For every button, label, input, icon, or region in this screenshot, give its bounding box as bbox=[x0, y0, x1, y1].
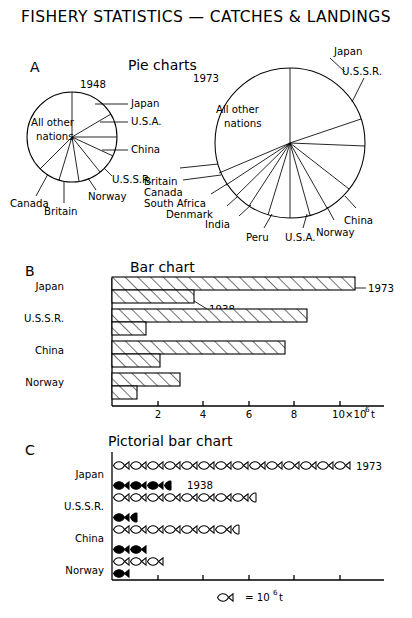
pie-1973-leader-ussr bbox=[352, 78, 364, 102]
pie-1948-leader-ussr bbox=[104, 168, 112, 176]
pie-1948-label-japan: Japan bbox=[130, 98, 159, 109]
pie-1973-label-all-other-line2: nations bbox=[224, 118, 262, 129]
pictorial-cat-china: China bbox=[75, 533, 104, 544]
legend-fish-icon bbox=[218, 594, 234, 601]
pictorial-row-ussr-1973 bbox=[114, 493, 257, 502]
pie-1973-label-usa: U.S.A. bbox=[285, 232, 315, 243]
pictorial-row-ussr-1938 bbox=[114, 513, 138, 522]
pie-1948-label-usa: U.S.A. bbox=[131, 116, 161, 127]
pie-1973-year: 1973 bbox=[193, 73, 219, 84]
bar-chart-cat-japan: Japan bbox=[35, 281, 64, 292]
bar-norway-1938 bbox=[112, 386, 137, 399]
bar-chart-cat-ussr: U.S.S.R. bbox=[24, 313, 64, 324]
pie-1973-spoke-ussr bbox=[290, 143, 365, 146]
pictorial-row-norway-1973 bbox=[114, 558, 164, 565]
pie-1948-spoke-japan bbox=[72, 114, 111, 137]
bar-china-1938 bbox=[112, 354, 160, 367]
panel-b-letter: B bbox=[25, 263, 35, 279]
legend-exponent: 6 bbox=[273, 588, 278, 597]
legend-tonnes: t bbox=[279, 592, 283, 603]
panel-c-letter: C bbox=[25, 442, 35, 458]
pie-1973-leader-india bbox=[239, 205, 251, 216]
panel-a-heading: Pie charts bbox=[128, 57, 197, 73]
bar-ticklabel-4: 4 bbox=[200, 409, 206, 420]
pie-1973-label-china: China bbox=[344, 215, 373, 226]
bar-chart-cat-norway: Norway bbox=[25, 377, 64, 388]
bar-japan-1938 bbox=[112, 290, 194, 303]
pie-1973-leader-britain bbox=[180, 164, 218, 168]
bar-ticklabel-8: 8 bbox=[291, 409, 297, 420]
bar-axis-tonnes: t bbox=[371, 409, 375, 420]
pictorial-annot-1973: 1973 bbox=[356, 461, 382, 472]
pie-chart-1948: 1948 Japan U.S.A. China U.S.S.R. Norway … bbox=[10, 79, 161, 217]
bar-chart-cat-china: China bbox=[35, 345, 64, 356]
pictorial-bar-chart: Japan 1973 1938 U.S.S.R. Ch bbox=[64, 452, 384, 603]
pie-1948-label-china: China bbox=[131, 144, 160, 155]
pie-1973-leader-norway bbox=[327, 207, 334, 220]
pie-1973-leader-denmark bbox=[227, 196, 238, 206]
pie-1973-leader-south-africa bbox=[211, 184, 227, 194]
pictorial-annot-1938: 1938 bbox=[187, 480, 213, 491]
pie-1973-label-peru: Peru bbox=[246, 232, 269, 243]
pie-1973-spoke-canada bbox=[226, 143, 290, 185]
pie-1973-label-norway: Norway bbox=[316, 227, 355, 238]
bar-axis-exponent: 6 bbox=[365, 405, 370, 414]
figure-root: FISHERY STATISTICS — CATCHES & LANDINGS … bbox=[0, 0, 412, 618]
pie-1948-spoke-ussr bbox=[72, 137, 100, 172]
pie-1948-spoke-china bbox=[72, 137, 113, 156]
pie-1973-label-japan: Japan bbox=[333, 46, 362, 57]
pie-1948-label-norway: Norway bbox=[88, 191, 127, 202]
pie-1948-label-all-other-line2: nations bbox=[36, 131, 74, 142]
bar-china-1973 bbox=[112, 341, 285, 354]
pie-1973-label-india: India bbox=[205, 219, 230, 230]
pie-1973-leader-china bbox=[345, 196, 356, 208]
pictorial-legend: = 10 6 t bbox=[218, 588, 284, 603]
bar-annot-1973: 1973 bbox=[368, 283, 394, 294]
pictorial-row-china-1938 bbox=[114, 546, 147, 553]
pie-1973-spoke-japan bbox=[290, 119, 361, 143]
bar-chart: Japan 1973 1938 U.S.S.R. China Norway 2 … bbox=[24, 277, 394, 420]
pie-1973-label-canada: Canada bbox=[144, 187, 183, 198]
fishery-statistics-figure: FISHERY STATISTICS — CATCHES & LANDINGS … bbox=[0, 0, 412, 618]
bar-axis-times10: ×10 bbox=[345, 409, 367, 420]
bar-japan-1973 bbox=[112, 277, 355, 290]
pie-1973-spoke-denmark bbox=[249, 143, 290, 206]
pie-1973-spoke-norway bbox=[290, 143, 327, 208]
bar-ticklabel-2: 2 bbox=[155, 409, 161, 420]
panel-c-heading: Pictorial bar chart bbox=[108, 433, 233, 449]
pie-1973-label-ussr: U.S.S.R. bbox=[342, 66, 382, 77]
pie-1948-label-all-other-line1: All other bbox=[31, 117, 75, 128]
pictorial-row-norway-1938 bbox=[114, 570, 130, 577]
bar-ussr-1973 bbox=[112, 309, 307, 322]
pie-1948-spoke-norway bbox=[72, 137, 79, 181]
panel-b-heading: Bar chart bbox=[130, 259, 195, 275]
pie-1973-label-south-africa: South Africa bbox=[144, 198, 206, 209]
pie-1973-spoke-china bbox=[290, 143, 349, 189]
bar-ticklabel-6: 6 bbox=[246, 409, 252, 420]
pie-chart-1973: 1973 Japan U.S.S.R. China Norway U.S.A. … bbox=[144, 46, 382, 243]
pie-1948-leader-canada bbox=[36, 174, 48, 196]
pictorial-row-china-1973 bbox=[114, 525, 240, 534]
pie-1973-label-all-other-line1: All other bbox=[216, 104, 260, 115]
bar-leader-1938 bbox=[194, 301, 207, 309]
pie-1973-spoke-usa bbox=[290, 143, 310, 215]
legend-equals-text: = 10 bbox=[245, 592, 270, 603]
bar-ussr-1938 bbox=[112, 322, 146, 335]
pie-1948-year: 1948 bbox=[80, 79, 106, 90]
pie-1973-leader-peru bbox=[264, 214, 272, 228]
pictorial-cat-japan: Japan bbox=[75, 469, 104, 480]
bar-axis-unit-label: 10 ×10 6 t bbox=[332, 405, 375, 420]
pictorial-cat-ussr: U.S.S.R. bbox=[64, 501, 104, 512]
panel-a-letter: A bbox=[30, 59, 40, 75]
pictorial-row-japan-1973 bbox=[114, 462, 351, 469]
pie-1973-label-denmark: Denmark bbox=[166, 209, 213, 220]
pie-1973-leader-canada bbox=[183, 175, 221, 180]
pie-1948-leader-norway bbox=[88, 178, 96, 190]
pie-1973-label-britain: Britain bbox=[144, 176, 178, 187]
pie-1973-spoke-britain bbox=[219, 143, 290, 173]
bar-norway-1973 bbox=[112, 373, 180, 386]
bar-ticklabel-10: 10 bbox=[332, 409, 345, 420]
pie-1948-label-britain: Britain bbox=[44, 206, 78, 217]
pictorial-cat-norway: Norway bbox=[65, 565, 104, 576]
pie-1948-label-canada: Canada bbox=[10, 198, 49, 209]
